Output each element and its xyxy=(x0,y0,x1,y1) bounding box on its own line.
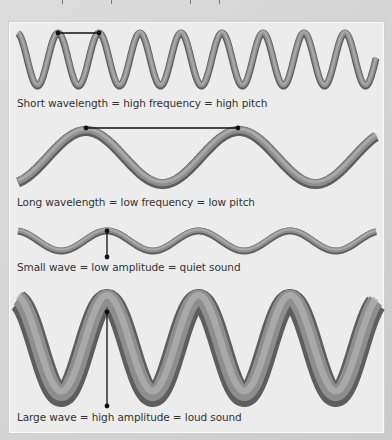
short-wavelength-wave xyxy=(18,31,376,86)
small-wave-label: Small wave = low amplitude = quiet sound xyxy=(17,261,241,273)
short-wavelength-label: Short wavelength = high frequency = high… xyxy=(17,97,267,109)
wave-diagram xyxy=(0,0,392,440)
marker-dot xyxy=(105,310,110,315)
long-wavelength-wave xyxy=(18,126,376,184)
marker-dot xyxy=(105,229,110,234)
marker-dot xyxy=(97,31,102,36)
marker-dot xyxy=(236,126,241,131)
wave-ribbon xyxy=(18,130,376,183)
marker-dot xyxy=(56,31,61,36)
marker-dot xyxy=(84,126,89,131)
large-wave-label: Large wave = high amplitude = loud sound xyxy=(17,411,242,423)
small-amplitude-wave xyxy=(18,229,376,260)
long-wavelength-label: Long wavelength = low frequency = low pi… xyxy=(17,196,255,208)
marker-dot xyxy=(105,404,110,409)
marker-dot xyxy=(105,255,110,260)
large-amplitude-wave xyxy=(18,295,376,408)
